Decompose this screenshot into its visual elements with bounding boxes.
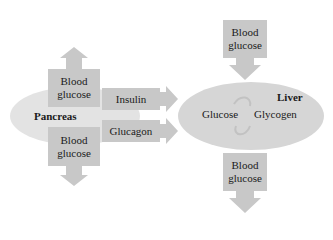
- blood-glucose-line2: glucose: [57, 147, 91, 160]
- arrow-down-out-icon: [229, 191, 261, 213]
- pancreas-blood-glucose-bottom-box: Blood glucose: [48, 127, 100, 166]
- insulin-arrow-head-icon: [160, 86, 178, 112]
- arrow-down-into-liver-icon: [229, 58, 261, 80]
- blood-glucose-line2: glucose: [57, 88, 91, 101]
- glucagon-box: Glucagon: [102, 120, 160, 142]
- insulin-box: Insulin: [102, 88, 160, 110]
- arrow-up-icon: [60, 47, 88, 69]
- glucose-label: Glucose: [202, 108, 238, 120]
- glucagon-label: Glucagon: [110, 125, 153, 138]
- blood-glucose-line1: Blood: [228, 26, 262, 39]
- blood-glucose-line1: Blood: [57, 134, 91, 147]
- liver-blood-glucose-out-box: Blood glucose: [223, 153, 267, 191]
- blood-glucose-line1: Blood: [228, 159, 262, 172]
- blood-glucose-line2: glucose: [228, 172, 262, 185]
- insulin-label: Insulin: [116, 93, 147, 106]
- pancreas-label: Pancreas: [34, 110, 77, 122]
- liver-blood-glucose-in-box: Blood glucose: [223, 20, 267, 58]
- pancreas-blood-glucose-top-box: Blood glucose: [48, 69, 100, 107]
- liver-label: Liver: [277, 91, 303, 103]
- glycogen-label: Glycogen: [254, 108, 297, 120]
- blood-glucose-line2: glucose: [228, 39, 262, 52]
- glucagon-arrow-head-icon: [160, 118, 178, 144]
- blood-glucose-line1: Blood: [57, 75, 91, 88]
- arrow-down-icon: [60, 166, 88, 186]
